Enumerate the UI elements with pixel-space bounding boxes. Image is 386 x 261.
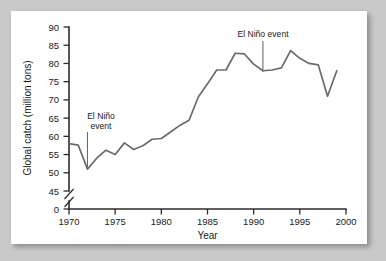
data-series-line [69, 51, 337, 169]
line-chart: 90 85 80 75 70 65 60 55 50 45 0 1970 197… [11, 11, 367, 244]
annotation-el-nino-1972: El Niño event [87, 111, 115, 167]
y-tick-label-80: 80 [48, 58, 59, 69]
y-tick-label-0: 0 [54, 204, 59, 215]
x-tick-label-1970: 1970 [58, 216, 79, 227]
annotation-label-line1: El Niño event [237, 29, 289, 39]
x-tick-label-1975: 1975 [105, 216, 126, 227]
annotation-el-nino-1991: El Niño event [237, 29, 289, 72]
y-tick-label-60: 60 [48, 131, 59, 142]
x-tick-label-2000: 2000 [335, 216, 356, 227]
y-axis-title: Global catch (million tons) [22, 60, 33, 175]
y-tick-label-85: 85 [48, 40, 59, 51]
x-tick-label-1985: 1985 [197, 216, 218, 227]
y-tick-label-50: 50 [48, 167, 59, 178]
x-tick-marks [69, 209, 346, 215]
y-tick-label-55: 55 [48, 149, 59, 160]
annotation-label-line2: event [90, 121, 112, 131]
y-tick-marks [64, 27, 70, 209]
y-tick-label-65: 65 [48, 113, 59, 124]
x-tick-label-1990: 1990 [243, 216, 264, 227]
x-tick-label-1980: 1980 [151, 216, 172, 227]
annotation-label-line1: El Niño [87, 111, 115, 121]
y-tick-label-45: 45 [48, 186, 59, 197]
figure-card: 90 85 80 75 70 65 60 55 50 45 0 1970 197… [11, 11, 367, 244]
y-tick-label-90: 90 [48, 22, 59, 33]
y-tick-label-70: 70 [48, 94, 59, 105]
x-axis-title: Year [197, 230, 218, 241]
x-tick-label-1995: 1995 [289, 216, 310, 227]
y-tick-label-75: 75 [48, 76, 59, 87]
